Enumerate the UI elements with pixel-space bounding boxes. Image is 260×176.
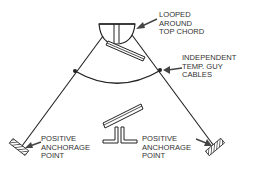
right-junction-dot bbox=[158, 68, 162, 72]
cable-arc bbox=[75, 70, 161, 83]
guy-cables-label: INDEPENDENT TEMP. GUY CABLES bbox=[182, 54, 236, 80]
double-angle-section bbox=[103, 127, 137, 143]
left-anchor-arrow bbox=[25, 142, 41, 148]
top-chord-clamp bbox=[99, 24, 135, 44]
guy-cable-diagram bbox=[0, 0, 260, 176]
left-junction-dot bbox=[73, 69, 77, 73]
looped-arrow bbox=[136, 19, 157, 29]
bottom-inclined-member bbox=[103, 104, 143, 128]
right-guy-cable bbox=[132, 35, 214, 146]
left-guy-cable bbox=[22, 36, 103, 146]
left-anchorage-label: POSITIVE ANCHORAGE POINT bbox=[41, 135, 90, 161]
looped-label: LOOPED AROUND TOP CHORD bbox=[159, 11, 204, 37]
guy-cables-arrow bbox=[163, 66, 182, 74]
right-anchorage-label: POSITIVE ANCHORAGE POINT bbox=[142, 135, 191, 161]
